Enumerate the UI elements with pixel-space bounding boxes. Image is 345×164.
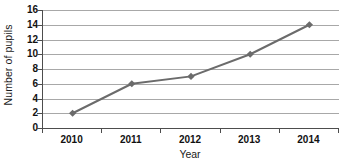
plot-area	[42, 10, 339, 129]
y-axis-tick-label: 4	[16, 94, 38, 104]
x-axis-title: Year	[42, 148, 338, 160]
x-axis-tick-label: 2012	[179, 134, 201, 145]
data-point-marker	[306, 21, 313, 28]
x-axis-tick-label: 2011	[120, 134, 142, 145]
y-axis-tick-label: 10	[16, 49, 38, 59]
data-point-marker	[69, 110, 76, 117]
x-axis-tick-mark	[279, 128, 280, 133]
series-line	[73, 25, 310, 114]
x-axis-tick-label: 2013	[238, 134, 260, 145]
x-axis-tick-mark	[160, 128, 161, 133]
y-axis-title-label: Number of pupils	[2, 25, 14, 106]
x-axis-tick-label: 2010	[60, 134, 82, 145]
y-axis-tick-label: 12	[16, 35, 38, 45]
y-axis-tick-label: 6	[16, 79, 38, 89]
x-axis-tick-mark	[101, 128, 102, 133]
line-chart-figure: Number of pupils 0246810121416 201020112…	[0, 0, 345, 164]
y-axis-tick-label: 16	[16, 5, 38, 15]
y-axis-tick-label: 14	[16, 20, 38, 30]
y-axis-tick-label: 0	[16, 123, 38, 133]
y-axis-tick-labels: 0246810121416	[16, 10, 38, 128]
x-axis-tick-mark	[338, 128, 339, 133]
x-axis-tick-labels: 20102011201220132014	[42, 134, 338, 148]
data-series-line	[43, 10, 339, 128]
y-axis-tick-label: 2	[16, 108, 38, 118]
x-axis-tick-label: 2014	[297, 134, 319, 145]
x-axis-tick-mark	[220, 128, 221, 133]
y-axis-title: Number of pupils	[0, 0, 16, 130]
data-point-marker	[128, 80, 135, 87]
data-point-marker	[187, 73, 194, 80]
x-axis-tick-mark	[42, 128, 43, 133]
y-axis-tick-label: 8	[16, 64, 38, 74]
data-point-marker	[247, 51, 254, 58]
